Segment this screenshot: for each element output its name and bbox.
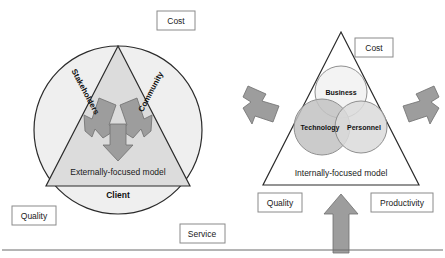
right-model-label: Internally-focused model xyxy=(295,168,388,178)
right-box-productivity-label: Productivity xyxy=(380,198,425,208)
venn-label-business: Business xyxy=(325,89,356,96)
left-box-cost[interactable]: Cost xyxy=(157,11,195,30)
left-box-service-label: Service xyxy=(188,229,217,239)
right-box-quality-label: Quality xyxy=(267,198,294,208)
left-model-label: Externally-focused model xyxy=(70,167,166,177)
left-box-quality-label: Quality xyxy=(21,211,48,221)
right-box-quality[interactable]: Quality xyxy=(258,193,302,212)
left-box-service[interactable]: Service xyxy=(180,224,225,243)
left-box-cost-label: Cost xyxy=(167,16,185,26)
venn-label-technology: Technology xyxy=(301,124,340,132)
right-box-productivity[interactable]: Productivity xyxy=(371,193,433,212)
right-box-cost-label: Cost xyxy=(365,43,383,53)
diagram-figure: Stakeholders Community Externally-focuse… xyxy=(0,0,445,258)
venn-label-personnel: Personnel xyxy=(347,124,381,131)
left-box-quality[interactable]: Quality xyxy=(12,206,56,225)
right-box-cost[interactable]: Cost xyxy=(355,38,393,57)
edge-label-client: Client xyxy=(106,190,130,200)
